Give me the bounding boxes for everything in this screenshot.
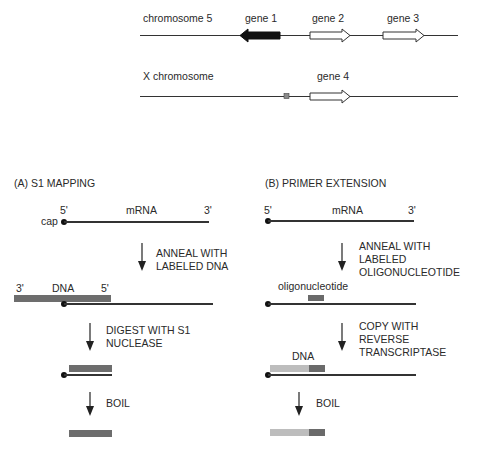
step-a2-label: DIGEST WITH S1 NUCLEASE bbox=[106, 324, 190, 350]
panel-a-title: (A) S1 MAPPING bbox=[14, 177, 95, 189]
step-b2-label: COPY WITH REVERSE TRANSCRIPTASE bbox=[359, 320, 446, 359]
step-b1-label: ANNEAL WITH LABELED OLIGONUCLEOTIDE bbox=[359, 240, 460, 279]
step-b3-label: BOIL bbox=[316, 397, 340, 410]
arrow-down-icon bbox=[338, 323, 348, 353]
regulatory-element-box bbox=[284, 94, 289, 99]
released-cdna-bar bbox=[270, 429, 309, 436]
released-dna-bar bbox=[69, 430, 112, 437]
mrna-line bbox=[268, 220, 414, 222]
cap-label: cap bbox=[41, 215, 58, 227]
arrow-down-icon bbox=[86, 392, 96, 422]
protected-dna-bar bbox=[69, 365, 112, 372]
dna-label: DNA bbox=[52, 282, 74, 294]
mrna-fragment-line bbox=[64, 374, 112, 376]
mrna-3prime-label: 3' bbox=[408, 204, 416, 216]
mrna-3prime-label: 3' bbox=[204, 204, 212, 216]
arrow-down-icon bbox=[86, 323, 96, 353]
mrna-5prime-label: 5' bbox=[264, 204, 272, 216]
extended-cdna-bar bbox=[270, 365, 309, 372]
arrow-down-icon bbox=[295, 392, 305, 422]
dna-label: DNA bbox=[292, 350, 314, 362]
dna-5prime-label: 5' bbox=[101, 282, 109, 294]
gene-4-arrow bbox=[310, 90, 350, 103]
step-a1-label: ANNEAL WITH LABELED DNA bbox=[156, 247, 228, 273]
mrna-line bbox=[64, 221, 209, 223]
arrow-down-icon bbox=[138, 243, 148, 273]
dna-3prime-label: 3' bbox=[16, 282, 24, 294]
released-primer-bar bbox=[309, 429, 325, 436]
mrna-5prime-label: 5' bbox=[60, 204, 68, 216]
oligonucleotide-bar bbox=[308, 295, 324, 301]
oligonucleotide-label: oligonucleotide bbox=[278, 280, 348, 292]
arrow-down-icon bbox=[338, 243, 348, 273]
gene-arrows-x bbox=[0, 0, 478, 110]
step-a3-label: BOIL bbox=[106, 397, 130, 410]
primer-segment-bar bbox=[309, 365, 325, 372]
mrna-label: mRNA bbox=[332, 204, 363, 216]
panel-b-title: (B) PRIMER EXTENSION bbox=[265, 177, 386, 189]
mrna-line bbox=[268, 374, 416, 376]
mrna-line bbox=[268, 303, 416, 305]
mrna-line bbox=[64, 303, 213, 305]
mrna-label: mRNA bbox=[126, 204, 157, 216]
